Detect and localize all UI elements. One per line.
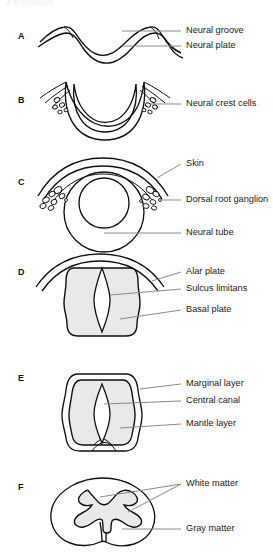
panel-letter-b: B bbox=[18, 96, 25, 105]
label-dorsal-root-ganglion: Dorsal root ganglion bbox=[186, 195, 268, 204]
label-neural-tube: Neural tube bbox=[186, 228, 234, 237]
label-neural-plate: Neural plate bbox=[186, 41, 236, 50]
panel-letter-a: A bbox=[18, 32, 25, 41]
panel-f-artwork bbox=[51, 478, 155, 546]
label-basal-plate: Basal plate bbox=[186, 305, 231, 314]
panel-e-artwork bbox=[62, 374, 142, 451]
panel-c-artwork bbox=[38, 158, 168, 252]
neural-tube-development-figure: A F STAGES bbox=[0, 0, 273, 558]
panel-a-artwork bbox=[38, 27, 183, 63]
label-sulcus-limitans: Sulcus limitans bbox=[186, 284, 247, 293]
label-neural-groove: Neural groove bbox=[186, 26, 244, 35]
panel-b-artwork bbox=[40, 82, 170, 140]
panel-letter-c: C bbox=[18, 178, 25, 187]
label-mantle-layer: Mantle layer bbox=[186, 419, 236, 428]
panel-d-artwork bbox=[36, 254, 164, 336]
label-gray-matter: Gray matter bbox=[186, 524, 235, 533]
figure-artwork bbox=[0, 0, 273, 558]
panel-letter-f: F bbox=[18, 483, 24, 492]
label-central-canal: Central canal bbox=[186, 396, 240, 405]
label-marginal-layer: Marginal layer bbox=[186, 379, 244, 388]
label-white-matter: White matter bbox=[186, 479, 238, 488]
label-skin: Skin bbox=[186, 159, 204, 168]
panel-letter-d: D bbox=[18, 268, 25, 277]
label-alar-plate: Alar plate bbox=[186, 267, 225, 276]
label-neural-crest-cells: Neural crest cells bbox=[186, 99, 256, 108]
panel-letter-e: E bbox=[18, 374, 24, 383]
